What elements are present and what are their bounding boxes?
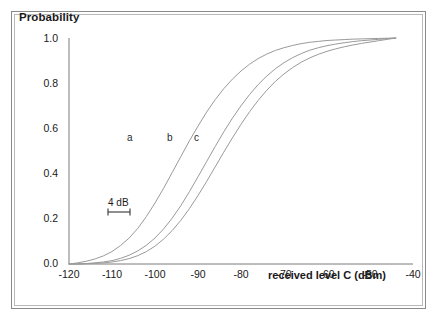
- y-tick-label: 0.8: [28, 77, 58, 89]
- x-tick-label: -110: [94, 268, 130, 280]
- x-tick-label: -90: [180, 268, 216, 280]
- x-tick-label: -40: [395, 268, 431, 280]
- figure-container: 1.0 0.8 0.6 0.4 0.2 0.0 -120 -110 -100 -…: [0, 0, 437, 334]
- spacing-annotation-label: 4 dB: [108, 197, 129, 208]
- plot-area: 1.0 0.8 0.6 0.4 0.2 0.0 -120 -110 -100 -…: [14, 14, 423, 306]
- x-axis-title: received level C (dBm): [268, 269, 386, 281]
- y-tick-label: 0.6: [28, 122, 58, 134]
- y-tick-label: 0.4: [28, 167, 58, 179]
- x-tick-label: -120: [51, 268, 87, 280]
- curve-label-a: a: [127, 132, 133, 143]
- measure-bar-icon: [108, 209, 130, 216]
- curve-label-b: b: [167, 132, 173, 143]
- curve-a: [69, 38, 396, 264]
- curve-label-c: c: [194, 132, 199, 143]
- curve-b: [69, 38, 396, 264]
- x-tick-label: -80: [223, 268, 259, 280]
- x-tick-label: -100: [137, 268, 173, 280]
- chart-svg: [14, 14, 423, 306]
- data-curves: [69, 38, 396, 264]
- y-tick-label: 1.0: [28, 32, 58, 44]
- y-tick-label: 0.2: [28, 212, 58, 224]
- curve-c: [69, 38, 396, 264]
- y-axis-title: Probability: [19, 11, 80, 23]
